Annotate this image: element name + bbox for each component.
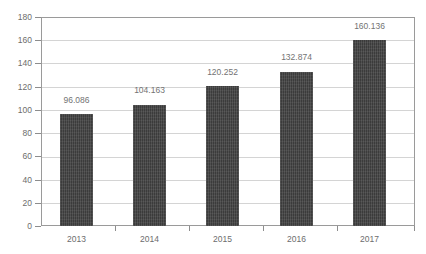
y-axis-label: 160 (0, 36, 32, 45)
x-axis-tick (189, 226, 190, 231)
x-axis-tick (115, 226, 116, 231)
bar-chart: 180 160 140 120 100 80 60 40 20 0 96.086… (0, 0, 426, 254)
x-axis-label-2014: 2014 (140, 235, 159, 244)
data-label-2013: 96.086 (64, 96, 90, 105)
data-label-2017: 160.136 (354, 22, 385, 31)
y-axis-label: 140 (0, 59, 32, 68)
bar-2017[interactable] (353, 40, 386, 226)
x-axis-label-2015: 2015 (213, 235, 232, 244)
data-label-2015: 120.252 (207, 68, 238, 77)
bar-2013[interactable] (60, 114, 93, 226)
y-axis-label: 0 (0, 222, 32, 231)
y-axis-label: 80 (0, 129, 32, 138)
data-label-2014: 104.163 (134, 86, 165, 95)
y-axis-tick (35, 226, 41, 227)
x-axis-label-2016: 2016 (287, 235, 306, 244)
data-label-2016: 132.874 (281, 53, 312, 62)
bar-2016[interactable] (280, 72, 313, 226)
x-axis-label-2017: 2017 (360, 235, 379, 244)
x-axis-tick (414, 226, 415, 231)
x-axis-label-2013: 2013 (67, 235, 86, 244)
y-axis-label: 60 (0, 152, 32, 161)
y-axis-label: 120 (0, 83, 32, 92)
y-axis-label: 180 (0, 13, 32, 22)
y-axis-label: 20 (0, 199, 32, 208)
x-axis-tick (337, 226, 338, 231)
bar-2015[interactable] (206, 86, 239, 226)
bar-2014[interactable] (133, 105, 166, 226)
y-axis-label: 40 (0, 176, 32, 185)
x-axis-tick (263, 226, 264, 231)
y-axis-label: 100 (0, 106, 32, 115)
